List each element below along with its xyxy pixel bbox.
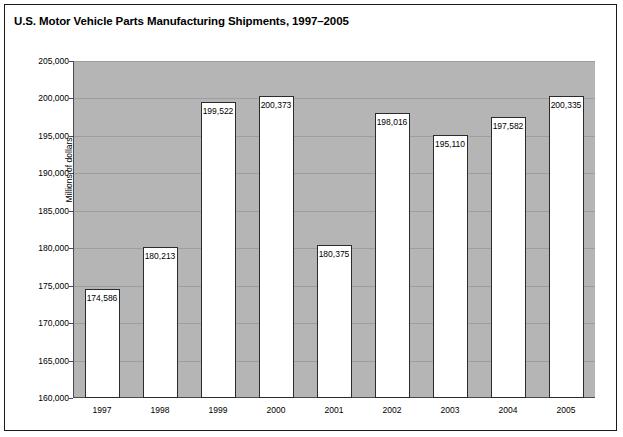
bar[interactable]: 195,110 [433,135,468,398]
y-axis-tick-label: 190,000 [9,168,69,178]
x-axis-tick-label: 2003 [421,405,479,415]
bar[interactable]: 200,373 [259,96,294,398]
bar[interactable]: 180,213 [143,247,178,398]
x-axis-tick-label: 2005 [537,405,595,415]
bar-value-label: 200,373 [260,100,293,110]
y-axis-tick-label: 165,000 [9,356,69,366]
y-axis-tick-mark [69,286,73,287]
bar-value-label: 180,375 [318,249,351,259]
x-axis-tick-label: 1999 [189,405,247,415]
bar[interactable]: 197,582 [491,117,526,398]
chart-title: U.S. Motor Vehicle Parts Manufacturing S… [14,15,349,27]
bar[interactable]: 174,586 [85,289,120,398]
x-axis-tick-label: 2000 [247,405,305,415]
bar[interactable]: 199,522 [201,102,236,398]
y-axis-tick-label: 195,000 [9,131,69,141]
plot-wrapper: 174,586180,213199,522200,373180,375198,0… [73,61,595,398]
bar[interactable]: 198,016 [375,113,410,398]
y-axis-tick-mark [69,173,73,174]
y-axis-tick-label: 175,000 [9,281,69,291]
bar-value-label: 174,586 [86,293,119,303]
y-axis-tick-labels: 160,000165,000170,000175,000180,000185,0… [5,61,69,398]
bar-value-label: 180,213 [144,251,177,261]
y-axis-tick-mark [69,211,73,212]
y-axis-tick-label: 170,000 [9,318,69,328]
y-axis-tick-mark [69,136,73,137]
x-axis-tick-label: 2001 [305,405,363,415]
bar-value-label: 199,522 [202,106,235,116]
y-axis-tick-mark [69,61,73,62]
x-axis-tick-label: 2002 [363,405,421,415]
y-axis-tick-mark [69,398,73,399]
bar-value-label: 197,582 [492,121,525,131]
y-axis-tick-mark [69,98,73,99]
y-axis-tick-label: 185,000 [9,206,69,216]
x-axis-tick-label: 1998 [131,405,189,415]
y-axis-tick-label: 200,000 [9,93,69,103]
y-axis-tick-mark [69,361,73,362]
gridline [74,98,595,99]
x-axis-tick-label: 1997 [73,405,131,415]
bar-value-label: 195,110 [434,139,467,149]
bar[interactable]: 180,375 [317,245,352,398]
bar[interactable]: 200,335 [549,96,584,398]
y-axis-tick-mark [69,323,73,324]
bar-value-label: 198,016 [376,117,409,127]
y-axis-tick-mark [69,248,73,249]
x-axis-tick-label: 2004 [479,405,537,415]
chart-frame: U.S. Motor Vehicle Parts Manufacturing S… [4,4,617,431]
y-axis-tick-label: 160,000 [9,393,69,403]
y-axis-tick-label: 205,000 [9,56,69,66]
bar-value-label: 200,335 [550,100,583,110]
gridline [74,61,595,62]
y-axis-tick-label: 180,000 [9,243,69,253]
